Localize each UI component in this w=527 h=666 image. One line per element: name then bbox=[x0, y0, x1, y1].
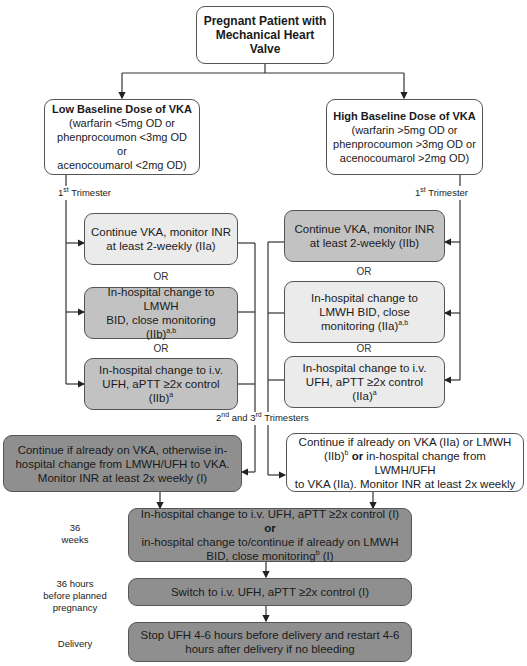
low-dose-box: Low Baseline Dose of VKA (warfarin <5mg … bbox=[44, 99, 200, 175]
first-trimester-label-left: 1st Trimester bbox=[58, 187, 111, 199]
label-delivery: Delivery bbox=[50, 638, 100, 650]
or-label: OR bbox=[150, 343, 172, 354]
label-36-weeks: 36weeks bbox=[55, 522, 95, 546]
high-dose-l3: acenocoumarol >2mg OD) bbox=[340, 151, 469, 165]
low-dose-l2: phenprocoumon <3mg OD or bbox=[51, 130, 193, 158]
patient-box: Pregnant Patient with Mechanical Heart V… bbox=[196, 6, 334, 64]
label-36-hours: 36 hoursbefore plannedpregnancy bbox=[40, 578, 110, 614]
low-dose-l1: (warfarin <5mg OD or bbox=[69, 116, 175, 130]
or-label: OR bbox=[353, 343, 375, 354]
high-dose-box: High Baseline Dose of VKA (warfarin >5mg… bbox=[326, 99, 483, 175]
patient-line2: Mechanical Heart bbox=[216, 28, 315, 42]
high-dose-l1: (warfarin >5mg OD or bbox=[351, 123, 457, 137]
low-second-third-box: Continue if already on VKA, otherwise in… bbox=[3, 435, 242, 492]
switch-ufh-box: Switch to i.v. UFH, aPTT ≥2x control (I) bbox=[128, 578, 412, 606]
high-dose-heading: High Baseline Dose of VKA bbox=[333, 109, 475, 123]
high-dose-l2: phenprocoumon >3mg OD or bbox=[333, 137, 476, 151]
low-option-lmwh: In-hospital change to LMWH BID, close mo… bbox=[84, 287, 238, 339]
or-label: OR bbox=[353, 266, 375, 277]
patient-line3: Valve bbox=[250, 42, 281, 56]
second-third-trimester-label: 2nd and 3rd Trimesters bbox=[216, 412, 309, 424]
low-dose-heading: Low Baseline Dose of VKA bbox=[52, 102, 192, 116]
low-option-ufh: In-hospital change to i.v. UFH, aPTT ≥2x… bbox=[84, 358, 238, 410]
patient-line1: Pregnant Patient with bbox=[204, 14, 327, 28]
low-option-continue-vka: Continue VKA, monitor INRat least 2-week… bbox=[84, 213, 238, 265]
first-trimester-label-right: 1st Trimester bbox=[415, 187, 468, 199]
high-option-lmwh: In-hospital change to LMWH BID, close mo… bbox=[284, 281, 445, 343]
high-option-continue-vka: Continue VKA, monitor INRat least 2-week… bbox=[284, 210, 445, 262]
or-label: OR bbox=[150, 271, 172, 282]
delivery-box: Stop UFH 4-6 hours before delivery and r… bbox=[128, 622, 412, 662]
flowchart: Pregnant Patient with Mechanical Heart V… bbox=[0, 0, 527, 666]
week36-box: In-hospital change to i.v. UFH, aPTT ≥2x… bbox=[128, 508, 412, 562]
low-dose-l3: acenocoumarol <2mg OD) bbox=[57, 158, 186, 172]
high-second-third-box: Continue if already on VKA (IIa) or LMWH… bbox=[286, 433, 524, 492]
high-option-ufh: In-hospital change to i.v. UFH, aPTT ≥2x… bbox=[284, 356, 445, 408]
